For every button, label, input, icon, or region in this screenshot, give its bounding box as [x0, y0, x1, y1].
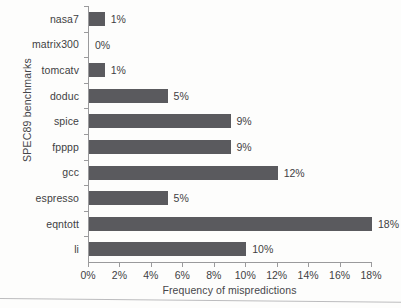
bar-row: espresso5% — [88, 185, 371, 211]
x-axis-tick — [182, 262, 183, 267]
category-label: spice — [54, 115, 79, 127]
bar — [89, 242, 246, 256]
category-label: tomcatv — [42, 64, 79, 76]
x-axis-tick — [214, 262, 215, 267]
x-axis-tick — [119, 262, 120, 267]
y-axis-tick — [84, 134, 88, 135]
x-axis-tick — [277, 262, 278, 267]
bar — [89, 191, 168, 205]
bar-value-label: 0% — [95, 38, 110, 52]
y-axis-tick — [84, 6, 88, 7]
bar-row: gcc12% — [88, 160, 371, 186]
y-axis-tick — [84, 236, 88, 237]
y-axis-tick — [84, 108, 88, 109]
bar-row: li10% — [88, 236, 371, 262]
x-axis-line — [88, 262, 371, 263]
bar-value-label: 9% — [237, 140, 252, 154]
bar-row: doduc5% — [88, 83, 371, 109]
x-axis-tick-label: 0% — [80, 269, 95, 281]
bar-value-label: 9% — [237, 114, 252, 128]
bar — [89, 89, 168, 103]
x-axis-tick — [245, 262, 246, 267]
bar-value-label: 18% — [378, 217, 399, 231]
bar — [89, 114, 231, 128]
x-axis-tick-label: 18% — [360, 269, 381, 281]
category-label: gcc — [62, 166, 79, 178]
bar-chart-figure: SPEC89 benchmarks nasa71%matrix3000%tomc… — [0, 0, 401, 308]
x-axis-tick-label: 8% — [206, 269, 221, 281]
bar-row: eqntott18% — [88, 211, 371, 237]
bar-value-label: 5% — [174, 191, 189, 205]
bar-row: spice9% — [88, 108, 371, 134]
category-label: matrix300 — [32, 38, 79, 50]
x-axis-tick-label: 2% — [112, 269, 127, 281]
y-axis-tick — [84, 160, 88, 161]
category-label: nasa7 — [50, 13, 79, 25]
x-axis-tick-label: 12% — [266, 269, 287, 281]
x-axis-tick — [371, 262, 372, 267]
category-label: doduc — [50, 90, 79, 102]
x-axis-tick-label: 16% — [329, 269, 350, 281]
bar-row: tomcatv1% — [88, 57, 371, 83]
bar-value-label: 12% — [284, 166, 305, 180]
bar — [89, 140, 231, 154]
x-axis-tick-label: 14% — [298, 269, 319, 281]
bar-value-label: 5% — [174, 89, 189, 103]
y-axis-tick — [84, 185, 88, 186]
bar — [89, 63, 105, 77]
bar-row: nasa71% — [88, 6, 371, 32]
y-axis-tick — [84, 57, 88, 58]
bar — [89, 217, 372, 231]
y-axis-tick — [84, 211, 88, 212]
bar-value-label: 10% — [252, 242, 273, 256]
scan-artifact-rule — [0, 298, 401, 303]
y-axis-title: SPEC89 benchmarks — [21, 25, 33, 195]
category-label: eqntott — [46, 218, 79, 230]
bar-row: matrix3000% — [88, 32, 371, 58]
y-axis-tick — [84, 32, 88, 33]
category-label: fpppp — [52, 141, 79, 153]
x-axis-tick-label: 4% — [143, 269, 158, 281]
x-axis-tick — [88, 262, 89, 267]
category-label: li — [74, 243, 79, 255]
bar-row: fpppp9% — [88, 134, 371, 160]
x-axis-tick-label: 6% — [175, 269, 190, 281]
category-label: espresso — [36, 192, 79, 204]
x-axis-tick — [151, 262, 152, 267]
x-axis-tick — [340, 262, 341, 267]
bar — [89, 12, 105, 26]
x-axis-title: Frequency of mispredictions — [88, 284, 371, 296]
y-axis-tick — [84, 83, 88, 84]
x-axis-tick — [308, 262, 309, 267]
bar-value-label: 1% — [111, 12, 126, 26]
bar — [89, 166, 278, 180]
bar-value-label: 1% — [111, 63, 126, 77]
plot-area: nasa71%matrix3000%tomcatv1%doduc5%spice9… — [88, 6, 371, 262]
x-axis-tick-label: 10% — [235, 269, 256, 281]
